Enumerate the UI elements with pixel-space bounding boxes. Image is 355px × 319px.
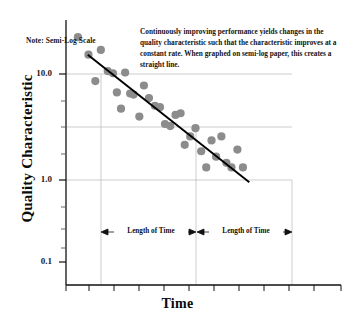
- span-label-right: Length of Time: [209, 227, 283, 235]
- scatter-point: [181, 141, 189, 149]
- scatter-point: [239, 163, 247, 171]
- scatter-point: [91, 77, 99, 85]
- scatter-point: [207, 136, 215, 144]
- drop-lines-vertical: [101, 74, 292, 285]
- scatter-point: [121, 68, 129, 76]
- scatter-point: [197, 147, 205, 155]
- scatter-point: [113, 88, 121, 96]
- scatter-point: [202, 163, 210, 171]
- chart-annotation-text: Continuously improving performance yield…: [140, 26, 345, 70]
- scatter-point: [97, 46, 105, 54]
- y-tick-label-0-1: 0.1: [18, 256, 52, 266]
- figure-canvas: 10.0 1.0 0.1 Length of Time Length of Ti…: [0, 0, 355, 319]
- y-axis-minor-ticks: [61, 101, 66, 248]
- x-axis-title: Time: [0, 296, 355, 312]
- span-label-left: Length of Time: [114, 227, 188, 235]
- scatter-point: [135, 112, 143, 120]
- y-axis-title: Quality Characteristic: [19, 59, 36, 239]
- scatter-point: [140, 81, 148, 89]
- scatter-point: [191, 124, 199, 132]
- scatter-point: [233, 145, 241, 153]
- y-axis-major-ticks: [59, 74, 66, 262]
- scatter-point: [117, 105, 125, 113]
- scatter-point: [176, 109, 184, 117]
- x-axis-ticks: [66, 285, 341, 291]
- note-semilog-scale: Note: Semi-Log Scale: [26, 36, 96, 45]
- scatter-point: [217, 132, 225, 140]
